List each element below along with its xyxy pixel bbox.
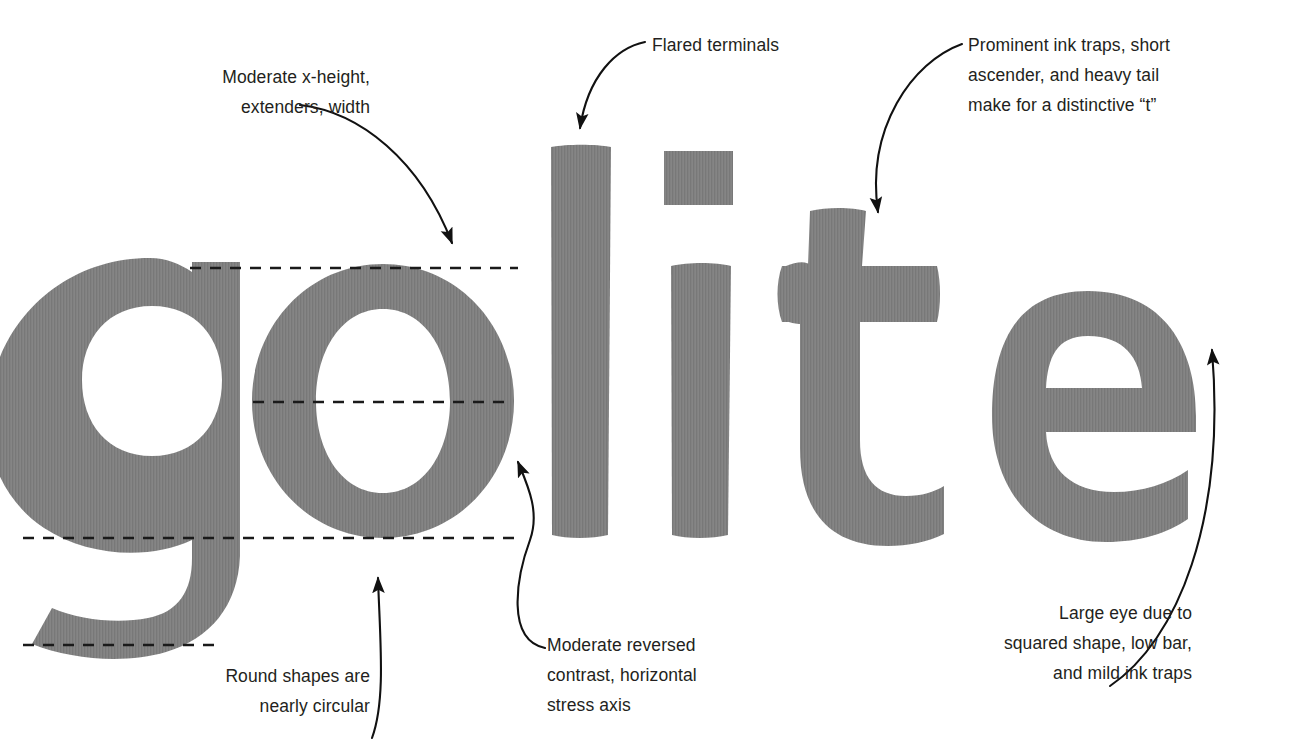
leader-x-height bbox=[300, 105, 452, 243]
glyph-i bbox=[664, 151, 733, 538]
annotation-x-height: Moderate x-height, extenders, width bbox=[110, 62, 370, 122]
leader-reversed-contrast bbox=[518, 462, 545, 648]
annotation-reversed-contrast: Moderate reversed contrast, horizontal s… bbox=[547, 630, 777, 720]
annotation-ink-traps: Prominent ink traps, short ascender, and… bbox=[968, 30, 1200, 120]
glyph-t bbox=[778, 208, 945, 546]
glyph-g bbox=[0, 258, 240, 659]
glyph-l bbox=[551, 145, 611, 538]
annotation-flared-terminals: Flared terminals bbox=[652, 30, 872, 60]
annotation-round-shapes: Round shapes are nearly circular bbox=[160, 661, 370, 721]
glyph-e bbox=[992, 291, 1196, 542]
leader-round-shapes bbox=[372, 578, 381, 738]
leader-flared-terminals bbox=[580, 42, 645, 128]
typography-specimen-figure: Moderate x-height, extenders, width Flar… bbox=[0, 0, 1300, 747]
glyph-group bbox=[0, 145, 1196, 659]
annotation-large-eye: Large eye due to squared shape, low bar,… bbox=[960, 598, 1192, 688]
leader-ink-traps bbox=[876, 44, 962, 212]
